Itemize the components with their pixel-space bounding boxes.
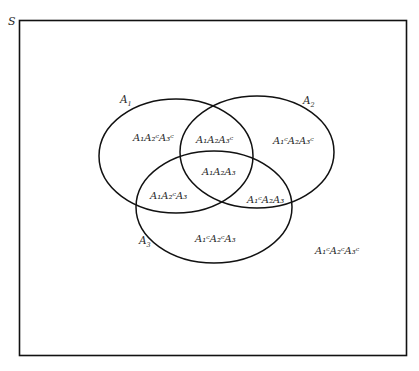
set-label-a3: A3: [138, 234, 151, 249]
region-none: A₁ᶜA₂ᶜA₃ᶜ: [314, 245, 360, 256]
sample-space-label: S: [8, 15, 16, 28]
region-a3-only: A₁ᶜA₂ᶜA₃: [194, 233, 236, 244]
region-a2-a3-not-a1: A₁ᶜA₂A₃: [246, 194, 284, 205]
region-a2-only: A₁ᶜA₂A₃ᶜ: [272, 135, 314, 146]
set-label-a1: A1: [119, 93, 132, 108]
sample-space-box: [20, 21, 407, 356]
venn-diagram: S A1 A2 A3 A₁A₂ᶜA₃ᶜ A₁A₂A₃ᶜ A₁ᶜA₂A₃ᶜ A₁A…: [0, 0, 419, 371]
region-a1-a3-not-a2: A₁A₂ᶜA₃: [149, 190, 187, 201]
region-all-three: A₁A₂A₃: [201, 166, 236, 177]
region-a1-only: A₁A₂ᶜA₃ᶜ: [132, 132, 174, 143]
set-label-a2: A2: [302, 94, 315, 109]
region-a1-a2-not-a3: A₁A₂A₃ᶜ: [195, 134, 234, 145]
